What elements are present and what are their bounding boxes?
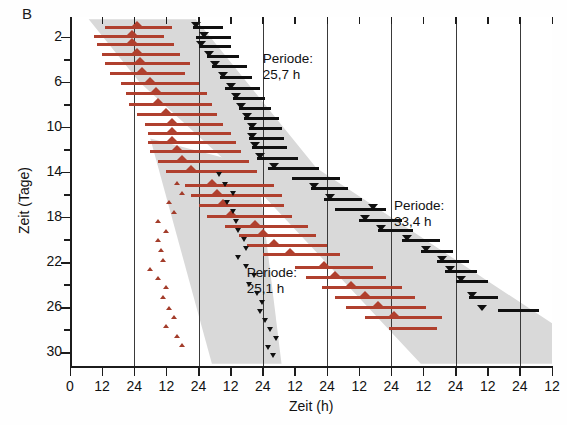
x-tick-label: 12 <box>405 378 441 394</box>
y-major-tick <box>61 262 70 264</box>
x-tick <box>423 367 425 376</box>
y-major-tick <box>61 217 70 219</box>
y-major-tick <box>61 307 70 309</box>
x-tick <box>198 367 200 376</box>
x-tick-top <box>134 17 136 24</box>
x-tick-top <box>455 17 457 24</box>
x-tick <box>230 367 232 376</box>
x-tick-top <box>487 17 489 24</box>
y-tick-label: 26 <box>22 298 62 314</box>
x-tick <box>294 367 296 376</box>
x-tick-top <box>391 17 393 24</box>
y-tick-label: 2 <box>22 28 62 44</box>
x-tick-label: 24 <box>502 378 538 394</box>
y-minor-tick <box>64 149 70 150</box>
x-tick-top <box>166 17 168 24</box>
y-minor-tick <box>64 284 70 285</box>
x-tick-top <box>359 17 361 24</box>
y-major-tick <box>61 127 70 129</box>
x-tick-top <box>327 17 329 24</box>
x-tick-label: 12 <box>534 378 567 394</box>
x-tick-label: 12 <box>470 378 506 394</box>
x-tick-label: 12 <box>341 378 377 394</box>
y-minor-tick <box>64 59 70 60</box>
x-tick-label: 24 <box>245 378 281 394</box>
x-tick <box>134 367 136 376</box>
x-tick-label: 12 <box>148 378 184 394</box>
x-tick <box>166 367 168 376</box>
y-axis-title: Zeit (Tage) <box>16 167 32 234</box>
y-axis-line <box>70 17 72 367</box>
x-tick <box>552 367 554 376</box>
y-minor-tick <box>64 194 70 195</box>
x-tick-top <box>102 17 104 24</box>
x-tick-label: 24 <box>309 378 345 394</box>
x-tick <box>70 367 72 376</box>
actogram-figure: B Periode:25,7 hPeriode:25,1 hPeriode:33… <box>0 0 567 425</box>
x-tick-top <box>70 17 72 24</box>
y-minor-tick <box>64 239 70 240</box>
x-tick <box>102 367 104 376</box>
x-tick-label: 12 <box>213 378 249 394</box>
y-minor-tick <box>64 104 70 105</box>
x-tick <box>519 367 521 376</box>
x-tick <box>455 367 457 376</box>
x-tick-top <box>262 17 264 24</box>
x-tick <box>391 367 393 376</box>
x-axis-title: Zeit (h) <box>289 398 333 414</box>
x-tick-label: 24 <box>373 378 409 394</box>
x-tick-label: 12 <box>277 378 313 394</box>
y-minor-tick <box>64 329 70 330</box>
x-tick-label: 24 <box>438 378 474 394</box>
x-tick <box>327 367 329 376</box>
axis-layer: 2610141822263001224122412241224122412241… <box>0 0 567 425</box>
x-tick-label: 0 <box>52 378 88 394</box>
x-tick-top <box>294 17 296 24</box>
x-tick-top <box>198 17 200 24</box>
x-tick-top <box>230 17 232 24</box>
x-tick-top <box>519 17 521 24</box>
x-tick <box>359 367 361 376</box>
y-tick-label: 10 <box>22 118 62 134</box>
x-tick-label: 24 <box>181 378 217 394</box>
y-major-tick <box>61 37 70 39</box>
y-tick-label: 6 <box>22 73 62 89</box>
x-axis-line <box>70 366 553 368</box>
y-major-tick <box>61 172 70 174</box>
x-tick <box>262 367 264 376</box>
x-tick-top <box>423 17 425 24</box>
x-tick-label: 24 <box>116 378 152 394</box>
x-tick <box>487 367 489 376</box>
y-major-tick <box>61 82 70 84</box>
x-tick-label: 12 <box>84 378 120 394</box>
y-tick-label: 30 <box>22 343 62 359</box>
y-major-tick <box>61 352 70 354</box>
x-tick-top <box>552 17 554 24</box>
y-tick-label: 22 <box>22 253 62 269</box>
